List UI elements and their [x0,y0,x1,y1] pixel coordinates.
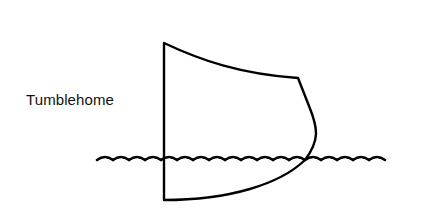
hull-diagram [0,0,426,210]
waterline-waves [97,157,385,160]
hull-section-outline [164,43,316,200]
